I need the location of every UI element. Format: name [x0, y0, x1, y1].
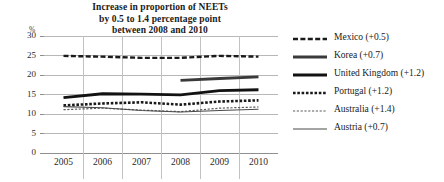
- y-tick-mark-15: [40, 94, 44, 95]
- legend-swatch-icon: [292, 49, 328, 61]
- legend-item-united-kingdom[interactable]: United Kingdom (+1.2): [292, 64, 442, 82]
- x-tick-label-2006: 2006: [83, 157, 123, 167]
- legend-item-label: United Kingdom (+1.2): [334, 68, 424, 78]
- legend-swatch-icon: [292, 85, 328, 97]
- x-tick-separator-2010: [239, 153, 240, 179]
- legend-item-mexico[interactable]: Mexico (+0.5): [292, 28, 442, 46]
- legend-item-label: Austria (+0.7): [334, 122, 388, 132]
- y-tick-label-25: 25: [6, 50, 36, 60]
- chart-title-line-1: Increase in proportion of NEETs: [55, 2, 265, 14]
- legend-item-label: Korea (+0.7): [334, 50, 383, 60]
- y-tick-label-5: 5: [6, 128, 36, 138]
- chart-title-line-2: by 0.5 to 1.4 percentage point: [55, 14, 265, 26]
- y-tick-mark-5: [40, 133, 44, 134]
- x-tick-separator-2009: [200, 153, 201, 179]
- chart-title: Increase in proportion of NEETs by 0.5 t…: [55, 2, 265, 37]
- y-tick-label-10: 10: [6, 108, 36, 118]
- legend-swatch-icon: [292, 31, 328, 43]
- x-tick-separator-2007: [122, 153, 123, 179]
- x-tick-label-2007: 2007: [122, 157, 162, 167]
- chart-container: Increase in proportion of NEETs by 0.5 t…: [0, 0, 444, 182]
- legend-swatch-icon: [292, 67, 328, 79]
- y-tick-mark-20: [40, 75, 44, 76]
- y-tick-mark-30: [40, 36, 44, 37]
- legend-item-label: Portugal (+1.2): [334, 86, 392, 96]
- legend-item-australia[interactable]: Australia (+1.4): [292, 100, 442, 118]
- x-tick-label-2010: 2010: [239, 157, 279, 167]
- legend-item-korea[interactable]: Korea (+0.7): [292, 46, 442, 64]
- y-tick-mark-10: [40, 114, 44, 115]
- y-tick-label-30: 30: [6, 30, 36, 40]
- x-tick-label-2008: 2008: [161, 157, 201, 167]
- legend-item-label: Mexico (+0.5): [334, 32, 389, 42]
- x-tick-label-2009: 2009: [200, 157, 240, 167]
- y-tick-mark-0: [40, 153, 44, 154]
- series-line-portugal: [64, 100, 259, 105]
- legend-item-austria[interactable]: Austria (+0.7): [292, 118, 442, 136]
- legend-item-portugal[interactable]: Portugal (+1.2): [292, 82, 442, 100]
- y-tick-mark-25: [40, 55, 44, 56]
- plot-area: [44, 36, 278, 153]
- legend-swatch-icon: [292, 103, 328, 115]
- y-tick-label-0: 0: [6, 147, 36, 157]
- y-tick-label-15: 15: [6, 89, 36, 99]
- series-line-mexico: [64, 56, 259, 58]
- legend-item-label: Australia (+1.4): [334, 104, 395, 114]
- legend-swatch-icon: [292, 121, 328, 133]
- y-tick-label-20: 20: [6, 69, 36, 79]
- chart-legend: Mexico (+0.5)Korea (+0.7)United Kingdom …: [292, 28, 442, 136]
- x-tick-separator-2008: [161, 153, 162, 179]
- series-lines: [44, 36, 278, 153]
- series-line-united-kingdom: [64, 90, 259, 98]
- x-tick-label-2005: 2005: [44, 157, 84, 167]
- series-line-korea: [181, 77, 259, 81]
- series-line-austria: [64, 107, 259, 112]
- x-tick-separator-2006: [83, 153, 84, 179]
